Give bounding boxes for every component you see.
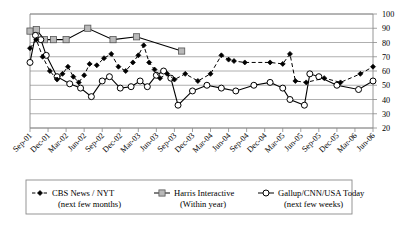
y-tick-label-90: 90 <box>382 24 390 33</box>
x-tick-label-6: Mar-03 <box>119 131 143 155</box>
data-point-circle-7 <box>88 94 94 100</box>
x-tick-label-19: Jun-06 <box>355 131 377 153</box>
data-point-diamond-39 <box>371 64 376 69</box>
y-tick-label-30: 30 <box>382 110 390 119</box>
legend-sublabel-1: (Within year) <box>180 199 226 209</box>
legend-label-1: Harris Interactive <box>174 188 235 198</box>
data-point-diamond-24 <box>183 71 188 76</box>
x-tick-label-group-14: Mar-05 <box>263 131 287 155</box>
data-point-diamond-29 <box>231 59 236 64</box>
data-point-diamond-9 <box>82 73 87 78</box>
y-tick-label-60: 60 <box>382 67 390 76</box>
series-diamond <box>28 37 376 85</box>
data-point-circle-28 <box>316 74 322 80</box>
legend-sublabel-2: (next few weeks) <box>284 199 343 209</box>
x-tick-label-group-18: Mar-06 <box>335 131 359 155</box>
y-tick-label-80: 80 <box>382 39 390 48</box>
data-point-circle-1 <box>32 32 38 38</box>
y-tick-label-50: 50 <box>382 81 390 90</box>
legend-label-2: Gallup/CNN/USA Today <box>278 188 365 198</box>
data-point-circle-26 <box>301 102 307 108</box>
data-point-diamond-18 <box>141 43 146 48</box>
y-tick-label-40: 40 <box>382 96 390 105</box>
data-point-circle-6 <box>78 85 84 91</box>
data-point-circle-0 <box>27 59 33 65</box>
data-point-circle-22 <box>251 82 257 88</box>
data-point-square-8 <box>179 48 185 54</box>
data-point-circle-25 <box>287 97 293 103</box>
data-point-square-1 <box>33 27 39 33</box>
x-tick-label-14: Mar-05 <box>263 131 287 155</box>
data-point-diamond-34 <box>293 78 298 83</box>
data-point-circle-8 <box>99 78 105 84</box>
data-point-diamond-31 <box>268 60 273 65</box>
data-point-square-6 <box>110 37 116 43</box>
data-point-circle-5 <box>67 81 73 87</box>
data-point-circle-30 <box>356 87 362 93</box>
data-point-circle-24 <box>280 85 286 91</box>
data-point-square-7 <box>133 34 139 40</box>
data-point-diamond-38 <box>358 71 363 76</box>
data-point-diamond-6 <box>65 64 70 69</box>
x-tick-label-18: Mar-06 <box>335 131 359 155</box>
data-point-circle-9 <box>106 74 112 80</box>
data-point-diamond-11 <box>94 63 99 68</box>
data-point-circle-19 <box>204 82 210 88</box>
chart-figure: 2030405060708090100Sep-01Dec-01Mar-02Jun… <box>0 0 420 240</box>
data-point-circle-27 <box>307 71 313 77</box>
legend-label-0: CBS News / NYT <box>52 188 115 198</box>
data-point-circle-20 <box>218 85 224 91</box>
data-point-diamond-13 <box>109 51 114 56</box>
data-point-square-4 <box>63 37 69 43</box>
chart-canvas: 2030405060708090100Sep-01Dec-01Mar-02Jun… <box>0 0 420 240</box>
x-tick-label-10: Mar-04 <box>191 131 215 155</box>
series-square <box>27 25 185 54</box>
figure-caption <box>0 231 420 240</box>
x-tick-label-group-2: Mar-02 <box>46 131 70 155</box>
data-point-circle-23 <box>267 79 273 85</box>
data-point-diamond-14 <box>116 64 121 69</box>
legend-marker-circle <box>263 190 269 196</box>
series-circle <box>27 32 376 108</box>
data-point-circle-13 <box>144 84 150 90</box>
y-tick-label-100: 100 <box>382 10 394 19</box>
data-point-square-0 <box>27 28 33 34</box>
data-point-circle-11 <box>128 84 134 90</box>
data-point-circle-12 <box>137 78 143 84</box>
data-point-diamond-26 <box>208 71 213 76</box>
x-tick-label-group-19: Jun-06 <box>355 131 377 153</box>
y-tick-label-70: 70 <box>382 53 390 62</box>
series-line-circle <box>30 35 373 105</box>
data-point-diamond-16 <box>130 60 135 65</box>
data-point-diamond-10 <box>87 61 92 66</box>
data-point-square-3 <box>50 37 56 43</box>
data-point-circle-10 <box>117 85 123 91</box>
x-tick-label-group-10: Mar-04 <box>191 131 215 155</box>
data-point-diamond-25 <box>195 78 200 83</box>
legend-sublabel-0: (next few months) <box>58 199 121 209</box>
data-point-circle-31 <box>370 78 376 84</box>
y-tick-label-20: 20 <box>382 124 390 133</box>
x-tick-label-2: Mar-02 <box>46 131 70 155</box>
x-tick-label-group-6: Mar-03 <box>119 131 143 155</box>
data-point-diamond-30 <box>242 60 247 65</box>
data-point-circle-17 <box>175 102 181 108</box>
data-point-square-5 <box>85 25 91 31</box>
data-point-circle-18 <box>189 88 195 94</box>
data-point-diamond-28 <box>226 57 231 62</box>
data-point-circle-21 <box>233 88 239 94</box>
legend-marker-square <box>159 190 165 196</box>
